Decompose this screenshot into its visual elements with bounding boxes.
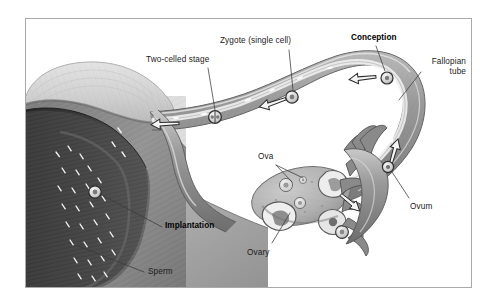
ovum-in-tube-cell: [382, 161, 393, 172]
label-fallopian-tube-line2: tube: [408, 67, 466, 77]
conception-cell: [381, 72, 393, 84]
label-ova: Ova: [258, 152, 273, 162]
mature-follicle: [262, 202, 296, 230]
label-zygote: Zygote (single cell): [220, 36, 291, 46]
label-implantation: Implantation: [165, 221, 214, 231]
two-celled-cell: [209, 111, 222, 124]
implantation-cell: [89, 186, 101, 198]
arrow-ampulla: [349, 72, 377, 85]
label-ovum: Ovum: [410, 202, 432, 212]
label-two-celled-stage: Two-celled stage: [146, 55, 209, 65]
label-sperm: Sperm: [148, 267, 173, 277]
released-ovum-cell: [336, 226, 349, 239]
follicle: [299, 176, 306, 183]
label-conception: Conception: [351, 33, 397, 43]
follicle: [294, 197, 305, 208]
label-fallopian-tube-line1: Fallopian: [408, 57, 466, 67]
leader-ovum: [392, 172, 409, 198]
label-ovary: Ovary: [247, 248, 269, 258]
fertilization-diagram: Two-celled stage Zygote (single cell) Co…: [0, 0, 493, 302]
zygote-cell: [286, 91, 298, 103]
ovary: [246, 158, 355, 234]
